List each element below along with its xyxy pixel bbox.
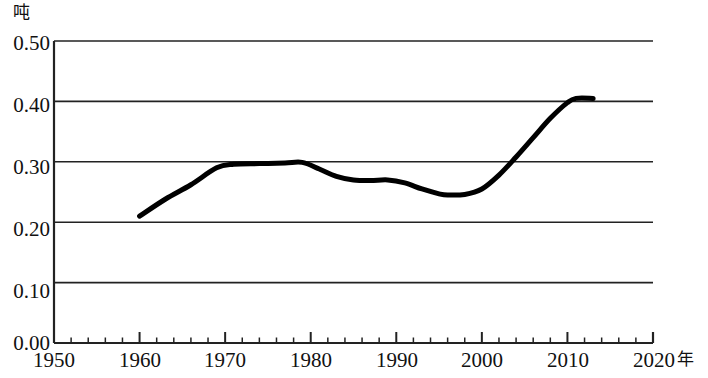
line-chart: 吨 年 0.50 0.40 0.30 0.20 0.10 0.00 1950 1… [0,0,708,378]
plot-area [0,0,708,378]
data-series-line [140,98,594,216]
plot-frame [54,41,653,343]
series-line-path [140,98,594,216]
gridlines [54,41,653,283]
x-axis-ticks [54,332,653,343]
